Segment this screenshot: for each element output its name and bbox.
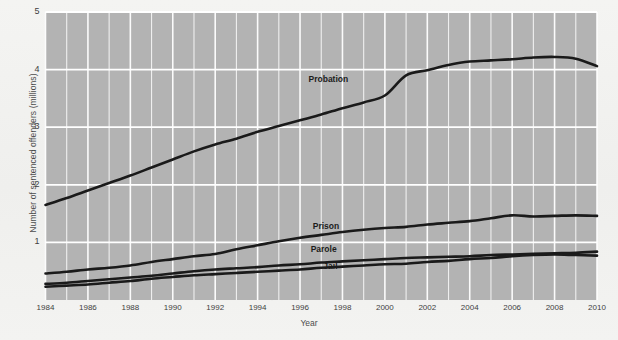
x-tick-label: 1994 xyxy=(238,303,278,312)
x-tick-label: 1986 xyxy=(68,303,108,312)
x-tick-label: 1992 xyxy=(195,303,235,312)
x-tick-label: 1996 xyxy=(280,303,320,312)
series-label-prison: Prison xyxy=(313,221,339,231)
series-label-probation: Probation xyxy=(309,74,349,84)
x-tick-label: 1988 xyxy=(110,303,150,312)
y-tick-label: 2 xyxy=(16,179,40,189)
x-tick-label: 1984 xyxy=(26,303,66,312)
x-tick-label: 2002 xyxy=(407,303,447,312)
series-label-parole: Parole xyxy=(311,244,337,254)
series-label-jail: Jail xyxy=(323,261,337,271)
x-tick-label: 1998 xyxy=(322,303,362,312)
y-tick-label: 3 xyxy=(16,121,40,131)
x-tick-label: 2006 xyxy=(492,303,532,312)
x-tick-label: 2000 xyxy=(365,303,405,312)
x-tick-label: 1990 xyxy=(153,303,193,312)
x-tick-label: 2004 xyxy=(450,303,490,312)
x-axis-title: Year xyxy=(0,318,618,328)
line-chart-figure: Number of sentenced offenders (millions)… xyxy=(0,0,618,340)
y-tick-label: 5 xyxy=(16,6,40,16)
y-tick-label: 4 xyxy=(16,64,40,74)
y-axis-title: Number of sentenced offenders (millions) xyxy=(28,43,38,263)
x-tick-label: 2010 xyxy=(577,303,617,312)
y-tick-label: 1 xyxy=(16,236,40,246)
x-tick-label: 2008 xyxy=(535,303,575,312)
plot-area xyxy=(0,0,618,340)
